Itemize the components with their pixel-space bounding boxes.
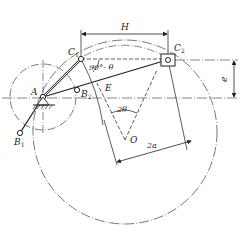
joint-c1 xyxy=(78,56,83,61)
label-e-point: E xyxy=(104,83,112,93)
joint-b1 xyxy=(17,130,22,135)
wedge-line-right xyxy=(125,70,157,140)
c2-down-line xyxy=(168,60,187,150)
label-e-offset: e xyxy=(219,77,229,82)
label-2a: 2a xyxy=(146,141,157,150)
label-angle-2theta: 2θ xyxy=(116,105,127,114)
joint-c2 xyxy=(166,58,171,63)
large-auxiliary-circle xyxy=(33,40,217,224)
label-c2: C2 xyxy=(174,43,185,54)
label-a: A xyxy=(30,87,38,97)
label-h: H xyxy=(120,22,129,32)
label-o: O xyxy=(130,135,138,145)
label-b1: B1 xyxy=(13,137,24,148)
label-c1: C1 xyxy=(68,47,79,58)
label-b2: B2 xyxy=(80,89,92,100)
joint-b2 xyxy=(74,87,79,92)
ext-line-2a-left xyxy=(104,120,117,165)
mechanism-diagram: A B1 B2 C1 C2 E O H e 90°- θ 2θ 2a xyxy=(0,0,244,246)
arc-over-chord xyxy=(84,45,162,56)
label-angle-90-theta: 90°- θ xyxy=(89,63,113,72)
